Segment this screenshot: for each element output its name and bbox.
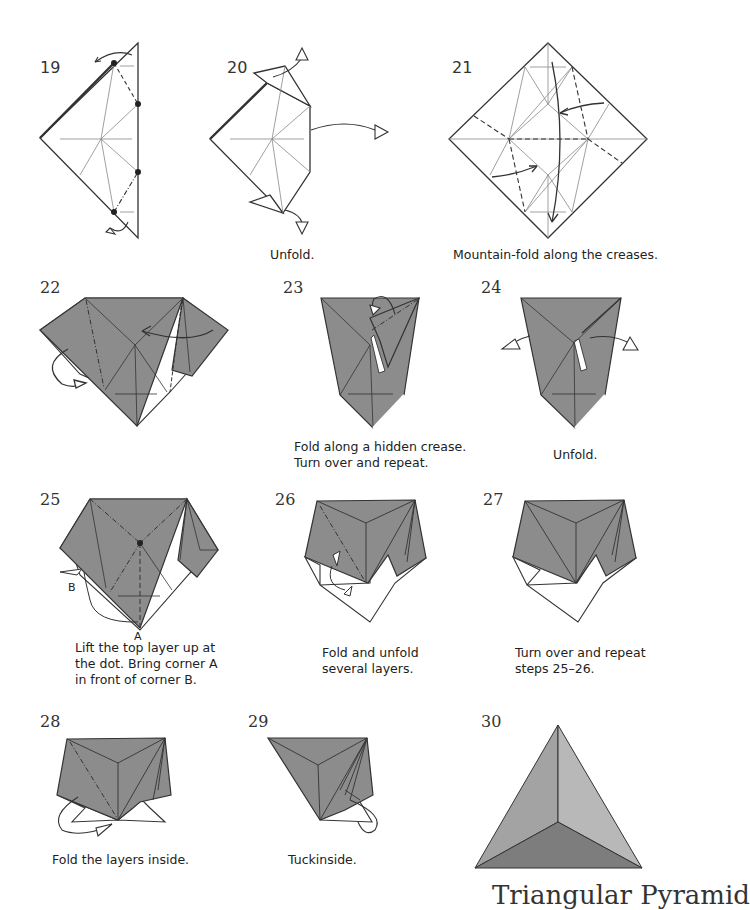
final-model-title: Triangular Pyramid bbox=[492, 880, 750, 910]
